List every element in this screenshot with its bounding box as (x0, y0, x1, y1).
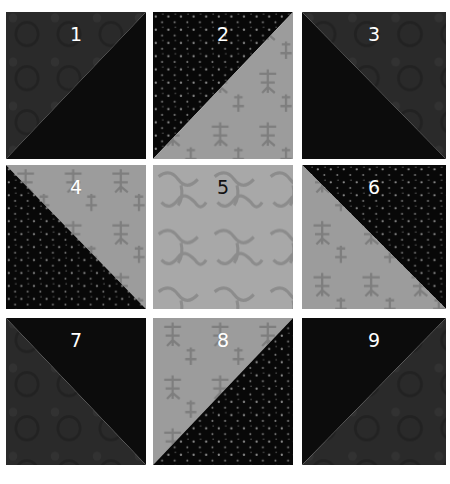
quilt-block-6: 6 (302, 165, 446, 309)
quilt-block-3: 3 (302, 12, 446, 159)
block-number: 8 (153, 328, 293, 352)
block-number: 2 (153, 22, 293, 46)
quilt-block-2: 2 (153, 12, 293, 159)
quilt-block-4: 4 (6, 165, 146, 309)
block-number: 5 (153, 175, 293, 199)
block-number: 7 (6, 328, 146, 352)
block-number: 4 (6, 175, 146, 199)
block-number: 9 (302, 328, 446, 352)
quilt-block-9: 9 (302, 318, 446, 465)
quilt-block-5: 5 (153, 165, 293, 309)
quilt-block-1: 1 (6, 12, 146, 159)
quilt-block-8: 8 (153, 318, 293, 465)
block-number: 6 (302, 175, 446, 199)
block-number: 1 (6, 22, 146, 46)
block-number: 3 (302, 22, 446, 46)
quilt-block-7: 7 (6, 318, 146, 465)
